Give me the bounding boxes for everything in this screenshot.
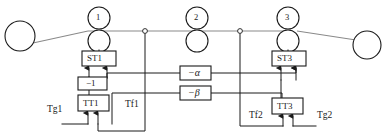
signal-label-tg2: Tg2 [317,111,332,121]
signal-label-tf2: Tf2 [249,111,263,121]
tt3-to-beta [211,93,282,98]
block-label-tt1: TT1 [83,99,99,108]
block-label-tt3: TT3 [277,102,293,111]
roller-2-number: 2 [194,13,198,22]
block-label-alpha: −α [188,68,200,78]
tension-sensor-2-icon [238,29,243,34]
rewind-roll [353,31,381,59]
nip-2-lower [186,30,208,52]
roller-1-number: 1 [96,13,100,22]
signal-label-tg1: Tg1 [47,105,62,115]
roller-3-number: 3 [285,13,289,22]
roller-group [5,7,381,59]
alpha-to-st1 [107,73,180,78]
nip-3-lower [277,30,299,52]
beta-to-tt1 [112,93,180,124]
unwind-roll [5,21,35,51]
block-label-st3: ST3 [277,54,292,63]
tension-sensor-1-icon [143,29,148,34]
block-label-beta: −β [188,88,200,98]
diagram-canvas: 1 2 3 ST1 −1 TT1 −α −β ST3 TT3 Tg1 Tf1 T… [0,0,382,136]
block-label-st1: ST1 [87,54,102,63]
st3-to-alpha [211,68,296,73]
nip-1-lower [88,30,110,52]
block-label-gain-minus-one: −1 [86,79,96,88]
signal-label-tf1: Tf1 [125,100,139,110]
